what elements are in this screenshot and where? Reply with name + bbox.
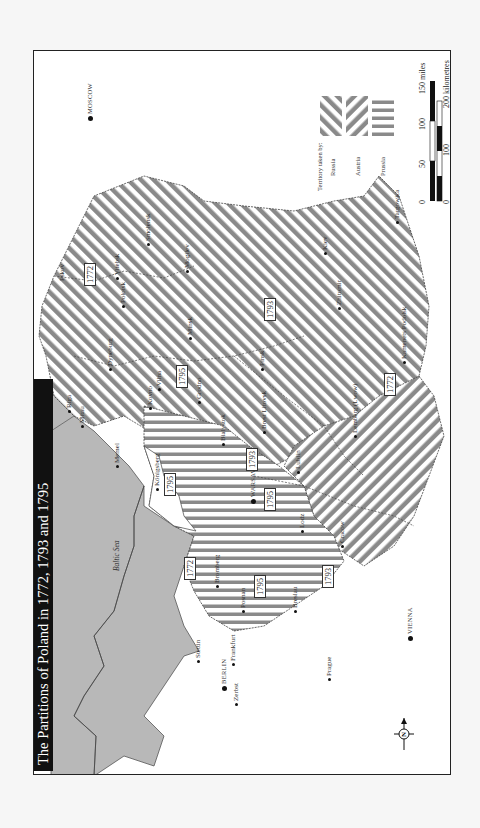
city-warsaw: WARSAW	[249, 467, 257, 504]
map-graphic	[34, 51, 451, 775]
city-label: Vitebsk	[113, 254, 121, 280]
city-dot-icon	[216, 585, 219, 588]
city-label: Mitau	[78, 406, 86, 428]
legend-austria: Austria	[354, 157, 361, 176]
city-dot-icon	[197, 660, 200, 663]
city-label: Targowica	[393, 190, 401, 224]
city-label: Mogilev	[183, 244, 191, 273]
city-label: Lodz	[298, 514, 306, 533]
city-label: Vilna	[155, 371, 163, 391]
city-dot-icon	[251, 499, 256, 504]
year-label: 1795	[176, 365, 188, 388]
year-label: 1793	[322, 565, 334, 588]
scale-miles-0: 0	[418, 200, 427, 204]
city-label: Stettin	[194, 640, 202, 663]
city-dot-icon	[81, 425, 84, 428]
year-label: 1772	[384, 373, 396, 396]
city-dot-icon	[294, 610, 297, 613]
scale-miles-100: 100	[418, 118, 427, 130]
sea-label: Baltic Sea	[112, 540, 121, 571]
city-label: Lublin	[294, 450, 302, 474]
city-label: Dyneburg	[106, 338, 114, 371]
city-label: Pinsk	[258, 350, 266, 371]
year-label: 1795	[264, 488, 276, 511]
city-dot-icon	[338, 307, 341, 310]
city-label: Grodno	[195, 378, 203, 404]
city-moscow: MOSCOW	[86, 83, 94, 121]
city-dot-icon	[68, 410, 71, 413]
city-dot-icon	[263, 431, 266, 434]
city-label: Riga	[65, 395, 73, 413]
scale-km-200: 200 kilometres	[442, 60, 451, 108]
city-label: Kamenets Podolsk	[400, 307, 408, 364]
year-label: 1772	[84, 263, 96, 286]
city-label: Polotsk	[119, 282, 127, 308]
city-dot-icon	[198, 401, 201, 404]
city-label: Pskov	[58, 264, 66, 281]
city-label: Bromberg	[213, 555, 221, 588]
map-canvas: The Partitions of Poland in 1772, 1793 a…	[34, 51, 451, 775]
city-dot-icon	[403, 361, 406, 364]
city-dot-icon	[222, 443, 225, 446]
city-label: Prague	[325, 657, 333, 681]
city-label: Minsk	[186, 317, 194, 340]
city-label: Bialystok	[219, 414, 227, 446]
scale-km-100: 100	[442, 144, 451, 156]
city-dot-icon	[301, 530, 304, 533]
scale-miles-150: 150 miles	[418, 63, 427, 94]
city-dot-icon	[408, 636, 413, 641]
city-label: Memel	[113, 443, 121, 468]
city-label: Smolensk	[144, 213, 152, 246]
city-label: Zerbst	[232, 683, 240, 706]
city-dot-icon	[242, 610, 245, 613]
city-label: Brest Litovsk	[260, 391, 268, 434]
city-dot-icon	[186, 270, 189, 273]
city-dot-icon	[232, 663, 235, 666]
city-dot-icon	[116, 465, 119, 468]
city-label: Zhitomir	[335, 280, 343, 310]
city-dot-icon	[297, 471, 300, 474]
scale-miles-50: 50	[418, 160, 427, 168]
year-label: 1772	[184, 557, 196, 580]
year-label: 1795	[164, 473, 176, 496]
compass-north-label: N	[400, 732, 408, 737]
city-label: Königsberg	[153, 453, 161, 491]
city-dot-icon	[324, 252, 327, 255]
year-label: 1793	[246, 448, 258, 471]
city-dot-icon	[396, 221, 399, 224]
scale-km-0: 0	[442, 200, 451, 204]
legend-heading: Territory taken by:	[316, 142, 323, 191]
city-vienna: VIENNA	[406, 607, 414, 641]
city-dot-icon	[261, 368, 264, 371]
city-dot-icon	[189, 337, 192, 340]
legend-prussia: Prussia	[379, 157, 386, 176]
city-dot-icon	[328, 678, 331, 681]
city-label: Lemberg (Lwow)	[351, 384, 359, 438]
city-dot-icon	[354, 435, 357, 438]
city-dot-icon	[122, 305, 125, 308]
city-dot-icon	[88, 116, 93, 121]
city-dot-icon	[109, 368, 112, 371]
year-label: 1793	[264, 298, 276, 321]
city-dot-icon	[222, 686, 227, 691]
city-dot-icon	[116, 277, 119, 280]
city-label: Frankfurt	[229, 635, 237, 666]
city-dot-icon	[341, 545, 344, 548]
city-dot-icon	[149, 407, 152, 410]
city-label: Kiev	[321, 236, 329, 255]
map-frame: The Partitions of Poland in 1772, 1793 a…	[33, 50, 451, 775]
map-title: The Partitions of Poland in 1772, 1793 a…	[34, 379, 53, 771]
city-dot-icon	[147, 243, 150, 246]
city-label: Kovno	[146, 386, 154, 410]
city-label: Posnan	[239, 588, 247, 613]
legend-russia: Russia	[329, 159, 336, 176]
city-dot-icon	[158, 388, 161, 391]
year-label: 1795	[254, 575, 266, 598]
city-dot-icon	[156, 488, 159, 491]
city-berlin: BERLIN	[220, 659, 228, 691]
city-dot-icon	[235, 703, 238, 706]
city-label: Cracow	[338, 521, 346, 548]
city-label: Breslau	[291, 587, 299, 613]
